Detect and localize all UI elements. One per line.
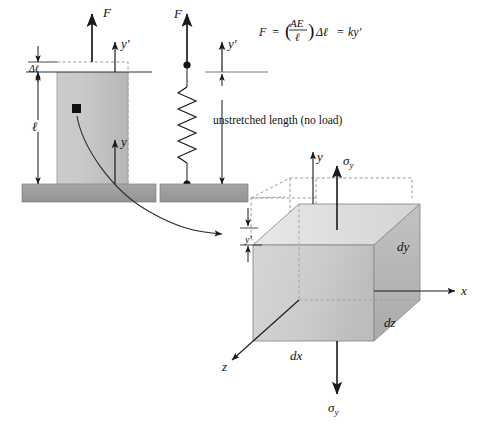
column-body: [57, 72, 128, 184]
equation-numerator: AE: [289, 17, 304, 29]
element-front-face: [253, 245, 374, 341]
dim-dx-label: dx: [290, 348, 303, 363]
z-axis-label-element: z: [221, 359, 227, 374]
y-prime-label-column: y′: [119, 36, 130, 51]
equation-rhs: ky′: [348, 25, 362, 39]
equation-delta-term: Δℓ: [315, 25, 328, 39]
y-prime-label-spring: y′: [226, 36, 237, 51]
delta-l-label: Δℓ: [28, 63, 39, 74]
dim-dz-label: dz: [384, 315, 396, 330]
x-axis-label-element: x: [460, 283, 467, 298]
equation-equals-2: =: [337, 25, 344, 39]
stress-element-marker: [72, 104, 81, 113]
equation-equals-1: =: [272, 25, 279, 39]
svg-text:F =: F =: [258, 25, 279, 39]
y-prime-deflection-label: y′: [244, 234, 252, 245]
y-label-column: y: [119, 134, 127, 149]
force-label-spring: F: [173, 6, 183, 21]
length-label: ℓ: [32, 119, 38, 134]
equation-lhs: F: [258, 25, 267, 39]
dim-dy-label: dy: [397, 239, 410, 254]
equation-denominator: ℓ: [295, 31, 300, 43]
ground-slab-spring: [160, 184, 248, 202]
force-label-column: F: [102, 5, 112, 20]
physics-figure: F Δℓ ℓ y′ y F: [0, 0, 490, 427]
ground-slab: [22, 184, 156, 202]
equation-paren-close: ): [308, 20, 314, 42]
y-axis-label-element: y: [315, 149, 323, 164]
unstretched-length-caption: unstretched length (no load): [213, 114, 343, 127]
